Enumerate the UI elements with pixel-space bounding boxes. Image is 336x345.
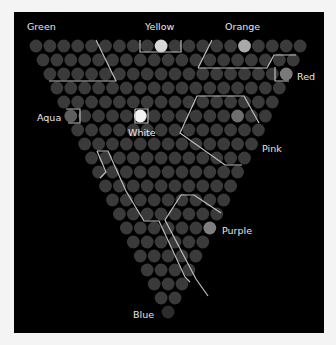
label-aqua: Aqua — [37, 112, 61, 123]
color-dot-yellow — [155, 40, 168, 53]
color-dot-blue — [162, 306, 175, 319]
grid-dot — [64, 54, 77, 67]
grid-dot — [92, 166, 105, 179]
grid-dot — [169, 124, 182, 137]
grid-dot — [203, 138, 216, 151]
grid-dot — [148, 194, 161, 207]
grid-dot — [190, 166, 203, 179]
grid-dot — [155, 264, 168, 277]
grid-dot — [141, 236, 154, 249]
grid-dot — [183, 208, 196, 221]
grid-dot — [259, 54, 272, 67]
grid-dot — [155, 236, 168, 249]
grid-dot — [203, 110, 216, 123]
grid-dot — [120, 222, 133, 235]
grid-dot — [203, 82, 216, 95]
grid-dot — [217, 138, 230, 151]
grid-dot — [252, 124, 265, 137]
grid-dot — [266, 40, 279, 53]
grid-dot — [141, 152, 154, 165]
grid-dot — [231, 138, 244, 151]
grid-dot — [183, 124, 196, 137]
grid-dot — [217, 54, 230, 67]
grid-dot — [155, 180, 168, 193]
grid-dot — [120, 166, 133, 179]
grid-dot — [224, 152, 237, 165]
grid-dot — [203, 194, 216, 207]
grid-dot — [176, 278, 189, 291]
grid-dot — [44, 40, 57, 53]
grid-dot — [196, 124, 209, 137]
grid-dot — [134, 82, 147, 95]
grid-dot — [148, 54, 161, 67]
grid-dot — [148, 166, 161, 179]
grid-dot — [183, 96, 196, 109]
grid-dot — [231, 166, 244, 179]
grid-dot — [71, 68, 84, 81]
grid-dot — [231, 82, 244, 95]
grid-dot — [196, 68, 209, 81]
grid-dot — [37, 54, 50, 67]
grid-dot — [183, 68, 196, 81]
grid-dot — [113, 124, 126, 137]
color-dot-pink — [231, 110, 244, 123]
grid-dot — [155, 124, 168, 137]
grid-dot — [85, 124, 98, 137]
grid-dot — [162, 82, 175, 95]
grid-dot — [162, 278, 175, 291]
label-yellow: Yellow — [145, 21, 174, 32]
grid-dot — [148, 222, 161, 235]
grid-dot — [196, 180, 209, 193]
grid-dot — [169, 152, 182, 165]
label-red: Red — [297, 71, 315, 82]
grid-dot — [127, 96, 140, 109]
grid-dot — [113, 152, 126, 165]
grid-dot — [148, 250, 161, 263]
grid-dot — [203, 166, 216, 179]
grid-dot — [113, 40, 126, 53]
grid-dot — [71, 96, 84, 109]
grid-dot — [134, 250, 147, 263]
grid-dot — [127, 40, 140, 53]
grid-dot — [92, 110, 105, 123]
grid-dot — [78, 82, 91, 95]
grid-dot — [134, 166, 147, 179]
grid-dot — [245, 82, 258, 95]
color-triangle-diagram — [0, 0, 336, 345]
grid-dot — [183, 152, 196, 165]
label-pink: Pink — [262, 143, 282, 154]
grid-dot — [217, 194, 230, 207]
grid-dot — [176, 54, 189, 67]
label-purple: Purple — [222, 225, 252, 236]
grid-dot — [113, 96, 126, 109]
grid-dot — [85, 68, 98, 81]
grid-dot — [120, 138, 133, 151]
grid-dot — [224, 68, 237, 81]
grid-dot — [127, 236, 140, 249]
grid-dot — [155, 292, 168, 305]
grid-dot — [106, 138, 119, 151]
color-dot-aqua — [64, 110, 77, 123]
grid-dot — [210, 96, 223, 109]
grid-dot — [99, 180, 112, 193]
grid-dot — [141, 40, 154, 53]
label-green: Green — [27, 21, 56, 32]
grid-dot — [217, 82, 230, 95]
grid-dot — [210, 124, 223, 137]
grid-dot — [196, 152, 209, 165]
grid-dot — [252, 96, 265, 109]
grid-dot — [266, 68, 279, 81]
color-dot-purple — [203, 222, 216, 235]
color-dot-orange — [238, 40, 251, 53]
color-dot-white — [134, 110, 147, 123]
grid-dot — [196, 208, 209, 221]
grid-dot — [217, 110, 230, 123]
grid-dot — [238, 152, 251, 165]
grid-dot — [190, 110, 203, 123]
grid-dot — [57, 96, 70, 109]
grid-dot — [210, 68, 223, 81]
grid-dot — [183, 40, 196, 53]
grid-dot — [210, 40, 223, 53]
grid-dot — [224, 96, 237, 109]
grid-dot — [169, 68, 182, 81]
